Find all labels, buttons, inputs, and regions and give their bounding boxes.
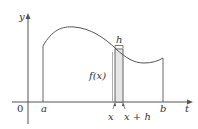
origin-label: 0 xyxy=(17,103,23,114)
strip-fill xyxy=(115,50,123,102)
point-x-label: x xyxy=(108,111,114,122)
xh-pointer-arrow-icon xyxy=(122,103,125,107)
h-bracket xyxy=(115,46,123,49)
curve-f xyxy=(43,27,163,63)
x-pointer-arrow-icon xyxy=(113,103,116,107)
point-x-plus-h-label: x + h xyxy=(124,111,151,122)
y-axis-arrow-icon xyxy=(26,13,31,19)
y-axis-label: y xyxy=(18,11,25,22)
width-h-label: h xyxy=(116,34,122,45)
point-b-label: b xyxy=(160,103,166,114)
area-diagram: y t 0 a b x x + h h f(x) xyxy=(0,0,198,129)
height-fx-label: f(x) xyxy=(88,70,106,81)
x-axis-label: t xyxy=(185,103,190,114)
point-a-label: a xyxy=(41,103,47,114)
